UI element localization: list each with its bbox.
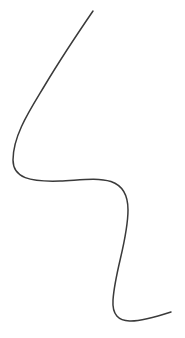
drawing-canvas[interactable] [0,0,185,338]
freehand-curve [13,11,171,321]
drawing-surface [0,0,185,338]
